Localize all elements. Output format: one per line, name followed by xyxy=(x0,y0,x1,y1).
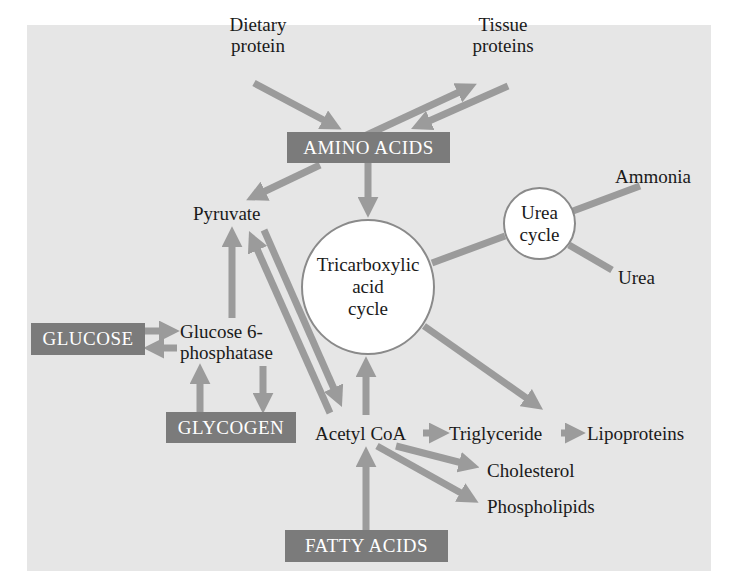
node-tissue-proteins: Tissue proteins xyxy=(448,14,558,56)
node-acetyl-coa: Acetyl CoA xyxy=(315,423,406,444)
tca-line3: cycle xyxy=(317,298,420,320)
line-tca-urea xyxy=(432,236,505,263)
g6p-line2: phosphatase xyxy=(180,342,273,363)
node-fatty-acids: FATTY ACIDS xyxy=(285,530,448,562)
arrow-amino-to-pyruvate xyxy=(255,165,320,196)
tca-line2: acid xyxy=(317,276,420,298)
line-urea-ammonia xyxy=(573,186,640,211)
node-amino-acids: AMINO ACIDS xyxy=(287,132,450,163)
node-ammonia: Ammonia xyxy=(615,166,691,187)
urea-cycle-line2: cycle xyxy=(519,224,559,246)
node-glucose-6-phosphatase: Glucose 6- phosphatase xyxy=(180,321,273,363)
dietary-protein-line1: Dietary xyxy=(213,14,303,35)
node-phospholipids: Phospholipids xyxy=(487,496,595,517)
node-glucose: GLUCOSE xyxy=(31,323,145,355)
tissue-proteins-line2: proteins xyxy=(448,35,558,56)
node-triglyceride: Triglyceride xyxy=(449,423,542,444)
node-glycogen: GLYCOGEN xyxy=(166,412,296,443)
node-urea-cycle: Urea cycle xyxy=(503,187,576,260)
node-dietary-protein: Dietary protein xyxy=(213,14,303,56)
node-pyruvate: Pyruvate xyxy=(193,203,261,224)
node-tca-cycle: Tricarboxylic acid cycle xyxy=(301,219,435,355)
dietary-protein-line2: protein xyxy=(213,35,303,56)
line-urea-urea xyxy=(569,245,612,270)
arrow-tca-to-triglyceride xyxy=(424,326,535,404)
node-urea: Urea xyxy=(618,267,655,288)
tissue-proteins-line1: Tissue xyxy=(448,14,558,35)
node-lipoproteins: Lipoproteins xyxy=(587,423,684,444)
arrow-dietary-to-amino xyxy=(254,83,333,125)
urea-cycle-line1: Urea xyxy=(519,202,559,224)
tca-line1: Tricarboxylic xyxy=(317,254,420,276)
node-cholesterol: Cholesterol xyxy=(487,460,575,481)
g6p-line1: Glucose 6- xyxy=(180,321,273,342)
